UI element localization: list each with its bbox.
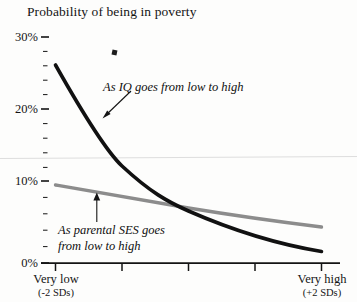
x-axis-sublabel-right: (+2 SDs) — [283, 287, 357, 298]
y-axis-label-30: 30% — [2, 30, 38, 45]
ses-curve — [56, 185, 322, 227]
x-axis-label-right: Very high — [283, 272, 357, 287]
y-axis-label-10: 10% — [2, 174, 38, 189]
poverty-probability-chart: Probability of being in poverty — [0, 0, 357, 302]
y-axis-label-20: 20% — [2, 102, 38, 117]
scan-line-artifact — [0, 157, 357, 159]
ses-annotation-line-1: As parental SES goes — [58, 222, 165, 238]
x-axis-sublabel-left: (-2 SDs) — [17, 287, 95, 298]
ses-annotation-line-2: from low to high — [58, 238, 165, 254]
x-axis-ticks — [56, 263, 322, 271]
y-axis-major-ticks — [41, 37, 49, 263]
iq-annotation-arrow — [103, 91, 132, 119]
iq-annotation-text: As IQ goes from low to high — [103, 79, 244, 95]
ses-annotation-text: As parental SES goes from low to high — [58, 222, 165, 254]
y-axis-label-0: 0% — [2, 256, 38, 271]
y-axis-minor-ticks — [43, 51, 48, 246]
chart-canvas — [0, 0, 357, 302]
ses-annotation-arrow — [93, 193, 100, 223]
x-axis-label-left: Very low — [17, 272, 95, 287]
